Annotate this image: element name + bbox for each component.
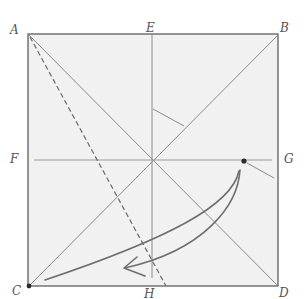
label-f: F [10, 153, 18, 165]
point-g-dot [241, 158, 246, 163]
label-a: A [10, 24, 19, 36]
label-c: C [12, 285, 21, 297]
label-e: E [146, 22, 155, 34]
label-b: B [280, 22, 289, 34]
label-h: H [144, 288, 154, 299]
label-g: G [284, 153, 294, 165]
label-d: D [279, 287, 289, 299]
fold-diagram [0, 0, 306, 299]
point-c-dot [27, 284, 32, 289]
